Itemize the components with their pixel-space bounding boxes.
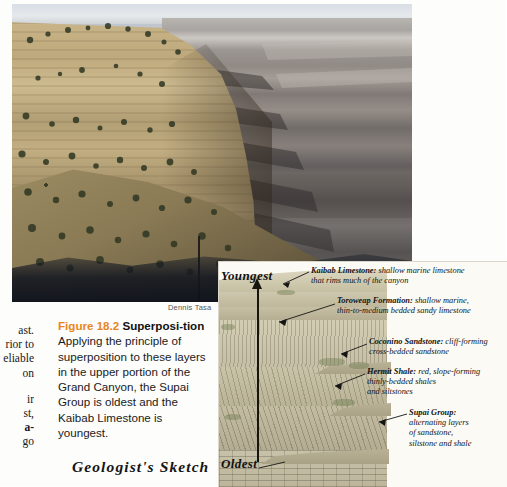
sketch-vegetation-tuft [225,414,241,420]
annotation-line: that rims much of the canyon [311,276,465,286]
sketch-vegetation-tuft [221,324,235,330]
sketch-vegetation-tuft [277,290,295,295]
bleed-line: on [0,366,34,380]
sketch-vegetation-tuft [319,358,345,366]
annotation-term: Kaibab Limestone: [311,266,376,275]
annotation-line: thin-to-medium bedded sandy limestone [337,306,471,316]
bleed-line: ast. [0,323,34,337]
sketch-vegetation-tuft [349,362,369,369]
figure-number: Figure 18.2 [58,319,119,332]
figure-caption: Figure 18.2 Superposi-tion Applying the … [58,318,210,440]
annotation-line: cross-bedded sandstone [369,347,488,357]
annotation-line: of sandstone, [409,428,471,438]
sketch-layer-coconino [219,320,387,368]
paragraph-gap [0,380,34,392]
bleed-line: go [0,434,34,448]
annotation-term: Supai Group: [409,408,456,417]
left-column-text-bleed: ast. rior to eliable on ir st, a- go [0,323,34,449]
geologists-sketch-panel: Youngest Oldest Kaibab Limestone: shallo… [218,261,507,487]
annotation-supai-group: Supai Group: alternating layers of sands… [409,408,471,449]
bleed-line: a- [0,420,34,434]
annotation-toroweap-formation: Toroweap Formation: shallow marine, thin… [337,296,471,316]
annotation-line: Supai Group: [409,408,471,418]
annotation-desc: shallow marine, [413,296,469,305]
annotation-hermit-shale: Hermit Shale: red, slope-forming thinly-… [367,367,480,398]
figure-title: Superposi- [122,319,183,332]
label-oldest: Oldest [221,456,257,472]
bleed-line: rior to [0,337,34,351]
sketch-vegetation-tuft [333,399,355,406]
annotation-line: alternating layers [409,418,471,428]
annotation-line: Hermit Shale: red, slope-forming [367,367,480,377]
annotation-line: Coconino Sandstone: cliff-forming [369,337,488,347]
annotation-line: and siltstones [367,387,480,397]
bleed-line: ir [0,392,34,406]
annotation-desc: cliff-forming [443,337,487,346]
photo-credit: Dennis Tasa [168,303,211,312]
figure-caption-body: Applying the principle of superposition … [58,334,206,439]
superposition-arrow-shaft [257,284,259,462]
annotation-desc: red, slope-forming [416,367,480,376]
annotation-term: Coconino Sandstone: [369,337,443,346]
grand-canyon-photograph [12,4,412,302]
annotation-coconino-sandstone: Coconino Sandstone: cliff-forming cross-… [369,337,488,357]
label-youngest: Youngest [221,268,273,284]
annotation-line: thinly-bedded shales [367,377,480,387]
annotation-kaibab-limestone: Kaibab Limestone: shallow marine limesto… [311,266,465,286]
annotation-line: Toroweap Formation: shallow marine, [337,296,471,306]
annotation-term: Toroweap Formation: [337,296,413,305]
geologists-sketch-title: Geologist's Sketch [72,458,209,476]
bleed-line: eliable [0,351,34,365]
annotation-term: Hermit Shale: [367,367,416,376]
figure-title-continuation: tion [183,319,204,332]
bleed-line: st, [0,406,34,420]
annotation-desc: shallow marine limestone [376,266,464,275]
annotation-line: Kaibab Limestone: shallow marine limesto… [311,266,465,276]
annotation-line: siltstone and shale [409,439,471,449]
